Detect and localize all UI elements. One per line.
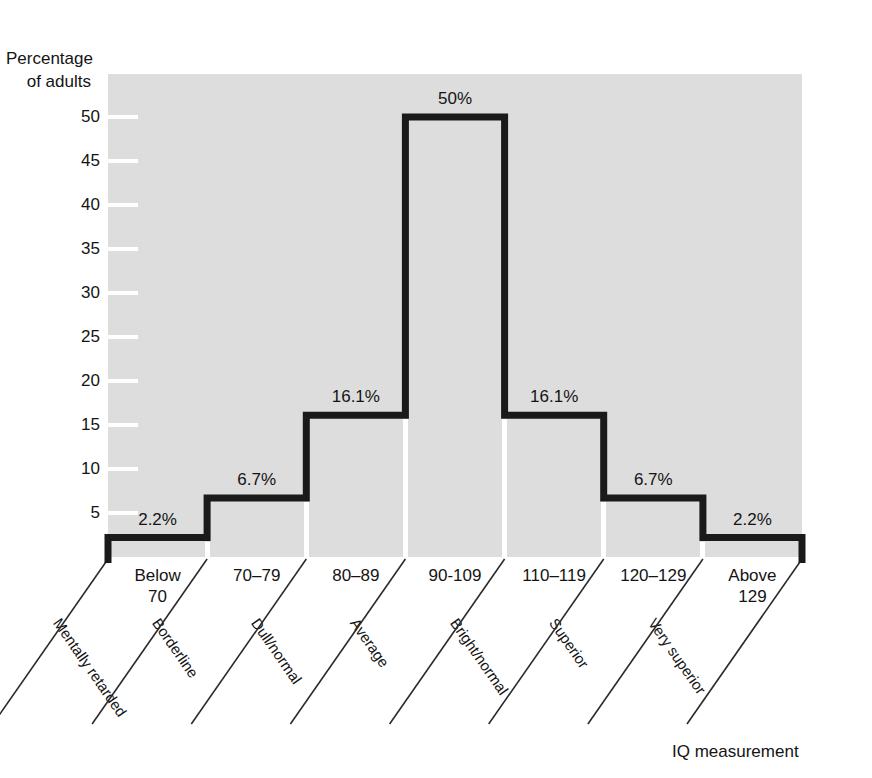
histogram-step-line <box>108 117 802 563</box>
iq-distribution-chart: Percentage of adults 5101520253035404550… <box>0 0 872 778</box>
x-axis-title: IQ measurement <box>672 742 799 762</box>
histogram-outline <box>0 0 872 778</box>
